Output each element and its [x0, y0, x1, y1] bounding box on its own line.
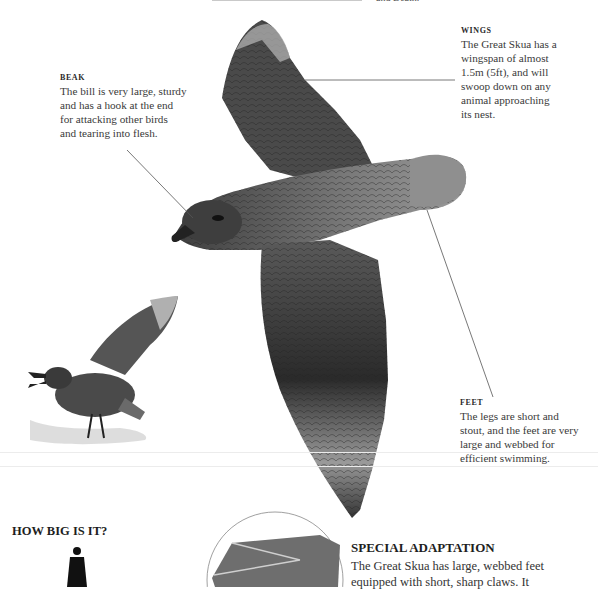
- special-adaptation-title: SPECIAL ADAPTATION: [351, 540, 598, 556]
- perched-skua-illustration: [28, 296, 178, 444]
- special-adaptation-text: The Great Skua has large, webbed feet eq…: [351, 558, 598, 590]
- feet-callout: FEET The legs are short and stout, and t…: [460, 398, 598, 465]
- how-big-title: HOW BIG IS IT?: [12, 524, 107, 539]
- wings-callout: WINGS The Great Skua has a wingspan of a…: [461, 26, 596, 121]
- divider: [0, 466, 598, 467]
- feet-leader-line: [427, 210, 493, 397]
- wings-heading: WINGS: [461, 26, 596, 35]
- beak-text: The bill is very large, sturdy and has a…: [60, 84, 230, 140]
- wings-text: The Great Skua has a wingspan of almost …: [461, 37, 596, 121]
- feet-text: The legs are short and stout, and the fe…: [460, 409, 598, 465]
- special-adaptation-section: SPECIAL ADAPTATION The Great Skua has la…: [351, 540, 598, 590]
- feet-heading: FEET: [460, 398, 598, 407]
- human-silhouette-icon: [67, 547, 87, 587]
- foot-inset-illustration: [207, 512, 343, 587]
- beak-heading: BEAK: [60, 73, 230, 82]
- beak-callout: BEAK The bill is very large, sturdy and …: [60, 73, 230, 140]
- beak-leader-line: [127, 150, 193, 218]
